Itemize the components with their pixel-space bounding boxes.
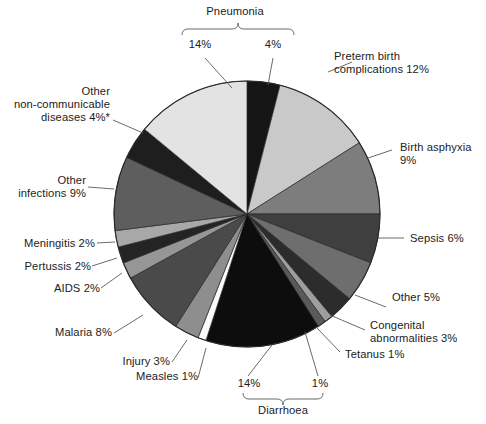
leader-pertussis — [92, 258, 117, 266]
callout-pneumonia-title: Pneumonia — [170, 5, 300, 18]
callout-other-ncd-line3: diseases 4%* — [0, 111, 110, 124]
leader-congenital — [330, 315, 365, 330]
callout-injury: Injury 3% — [60, 355, 170, 368]
callout-other: Other 5% — [392, 291, 440, 304]
callout-other-ncd-line2: non-communicable — [0, 98, 110, 111]
callout-aids: AIDS 2% — [16, 282, 100, 295]
callout-pneumonia-4: 4% — [248, 38, 298, 51]
callout-pertussis: Pertussis 2% — [4, 260, 91, 273]
leader-diarrhoea-14 — [248, 345, 272, 376]
leader-injury — [172, 340, 187, 362]
callout-preterm-line2: complications 12% — [334, 63, 429, 76]
leader-pneumonia-4 — [268, 58, 273, 85]
leader-meningitis — [97, 242, 115, 243]
leader-tetanus — [316, 327, 340, 352]
leader-asphyxia — [368, 150, 392, 158]
callout-other-ncd-line1: Other — [0, 85, 110, 98]
callout-pneumonia-14: 14% — [170, 38, 230, 51]
callout-meningitis: Meningitis 2% — [0, 237, 95, 250]
leader-other-ncd — [113, 120, 143, 133]
leader-aids — [101, 273, 122, 288]
callout-malaria: Malaria 8% — [12, 326, 112, 339]
leader-other — [355, 295, 386, 307]
pie-chart-figure: Pneumonia 14% 4% Preterm birth complicat… — [0, 0, 486, 424]
leader-diarrhoea-1 — [305, 332, 318, 376]
callout-asphyxia-line1: Birth asphyxia — [400, 141, 472, 154]
callout-diarrhoea-1: 1% — [300, 377, 340, 390]
callout-preterm-line1: Preterm birth — [334, 50, 400, 63]
leader-other-infections — [88, 187, 114, 189]
callout-other-infections-line1: Other — [0, 174, 86, 187]
callout-tetanus: Tetanus 1% — [345, 348, 404, 361]
pie-slice-group — [114, 81, 380, 347]
callout-congenital-line1: Congenital — [370, 319, 425, 332]
callout-diarrhoea-title: Diarrhoea — [243, 404, 323, 417]
callout-sepsis: Sepsis 6% — [410, 232, 464, 245]
callout-diarrhoea-14: 14% — [228, 377, 270, 390]
brace-pneumonia — [182, 23, 294, 35]
leader-pneumonia-14 — [205, 58, 232, 88]
callout-other-infections-line2: infections 9% — [0, 187, 86, 200]
leader-measles — [198, 348, 206, 378]
callout-measles: Measles 1% — [78, 370, 198, 383]
callout-asphyxia-line2: 9% — [400, 154, 416, 167]
callout-congenital-line2: abnormalities 3% — [370, 332, 457, 345]
leader-malaria — [114, 315, 143, 333]
